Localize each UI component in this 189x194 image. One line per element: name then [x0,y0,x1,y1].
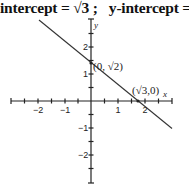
y-tick-label: −2 [78,150,88,160]
coordinate-plane: −2 −1 1 2 2 1 −1 −2 x y (0, √2) (√3,0) [0,0,189,194]
y-intercept-annotation: (0, √2) [93,60,123,73]
x-tick-label: −1 [60,105,70,115]
x-intercept-point [136,99,139,102]
x-tick-label: 1 [116,105,121,115]
x-tick-label: −2 [33,105,43,115]
y-tick-label: 2 [83,42,88,52]
y-tick-label: −1 [78,123,88,133]
line-graph [39,20,172,129]
y-axis-label: y [93,20,98,30]
y-tick-label: 1 [83,69,88,79]
x-axis-label: x [162,89,167,99]
x-intercept-annotation: (√3,0) [132,84,159,97]
